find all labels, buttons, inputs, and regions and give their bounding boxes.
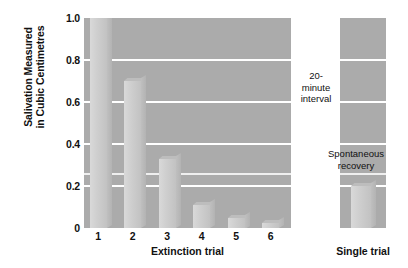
spontaneous-recovery-line2: recovery (324, 160, 388, 172)
x-axis-tick-3: 3 (157, 230, 177, 242)
interval-annotation-line3: interval (294, 93, 338, 105)
gridline-secondary-0.6 (340, 101, 386, 103)
single-trial-plot-area (340, 18, 386, 228)
bar-trial-4 (193, 205, 210, 228)
x-axis-tick-6: 6 (261, 230, 281, 242)
x-axis-tick-1: 1 (88, 230, 108, 242)
interval-annotation: 20- minute interval (294, 70, 338, 105)
bar-side-face (210, 199, 215, 228)
spontaneous-recovery-line1: Spontaneous (324, 148, 388, 160)
gridline-main-0.2 (84, 185, 291, 187)
gridline-main-0.4 (84, 143, 291, 145)
depth-line-main (84, 173, 291, 175)
y-axis-title-line2: in Cubic Centimetres (34, 25, 47, 128)
bar-trial-2 (124, 81, 141, 228)
y-axis-tick-0.6: 0.6 (46, 96, 80, 108)
y-axis-tick-0.8: 0.8 (46, 54, 80, 66)
secondary-x-axis-title: Single trial (326, 245, 400, 257)
bar-side-face (176, 153, 181, 228)
x-axis-tick-5: 5 (226, 230, 246, 242)
spontaneous-recovery-annotation: Spontaneous recovery (324, 148, 388, 171)
x-axis-tick-4: 4 (192, 230, 212, 242)
bar-side-face (279, 217, 284, 228)
x-axis-title: Extinction trial (84, 245, 291, 257)
gridline-secondary-0.8 (340, 59, 386, 61)
bar-side-face (245, 211, 250, 228)
depth-line-secondary (340, 173, 386, 175)
bar-trial-5 (228, 218, 245, 229)
extinction-trial-plot-area (84, 18, 291, 228)
bar-side-face (371, 180, 376, 228)
y-axis-tick-0.2: 0.2 (46, 180, 80, 192)
bar-single-trial (351, 186, 371, 228)
y-axis-tick-labels: 00.20.40.60.81.0 (46, 0, 80, 268)
gridline-main-0.8 (84, 59, 291, 61)
bar-side-face (107, 18, 112, 228)
y-axis-title-line1: Salivation Measured (22, 27, 35, 127)
gridline-main-0.6 (84, 101, 291, 103)
bar-trial-1 (90, 18, 107, 228)
bar-trial-3 (159, 159, 176, 228)
y-axis-tick-0.4: 0.4 (46, 138, 80, 150)
interval-annotation-line1: 20- (294, 70, 338, 82)
bar-trial-6 (262, 223, 279, 228)
y-axis-tick-1.0: 1.0 (46, 12, 80, 24)
y-axis-tick-0: 0 (46, 222, 80, 234)
x-axis-tick-labels: 123456 (84, 230, 291, 246)
gridline-secondary-0.4 (340, 143, 386, 145)
interval-annotation-line2: minute (294, 82, 338, 94)
x-axis-tick-2: 2 (123, 230, 143, 242)
bar-side-face (141, 75, 146, 228)
